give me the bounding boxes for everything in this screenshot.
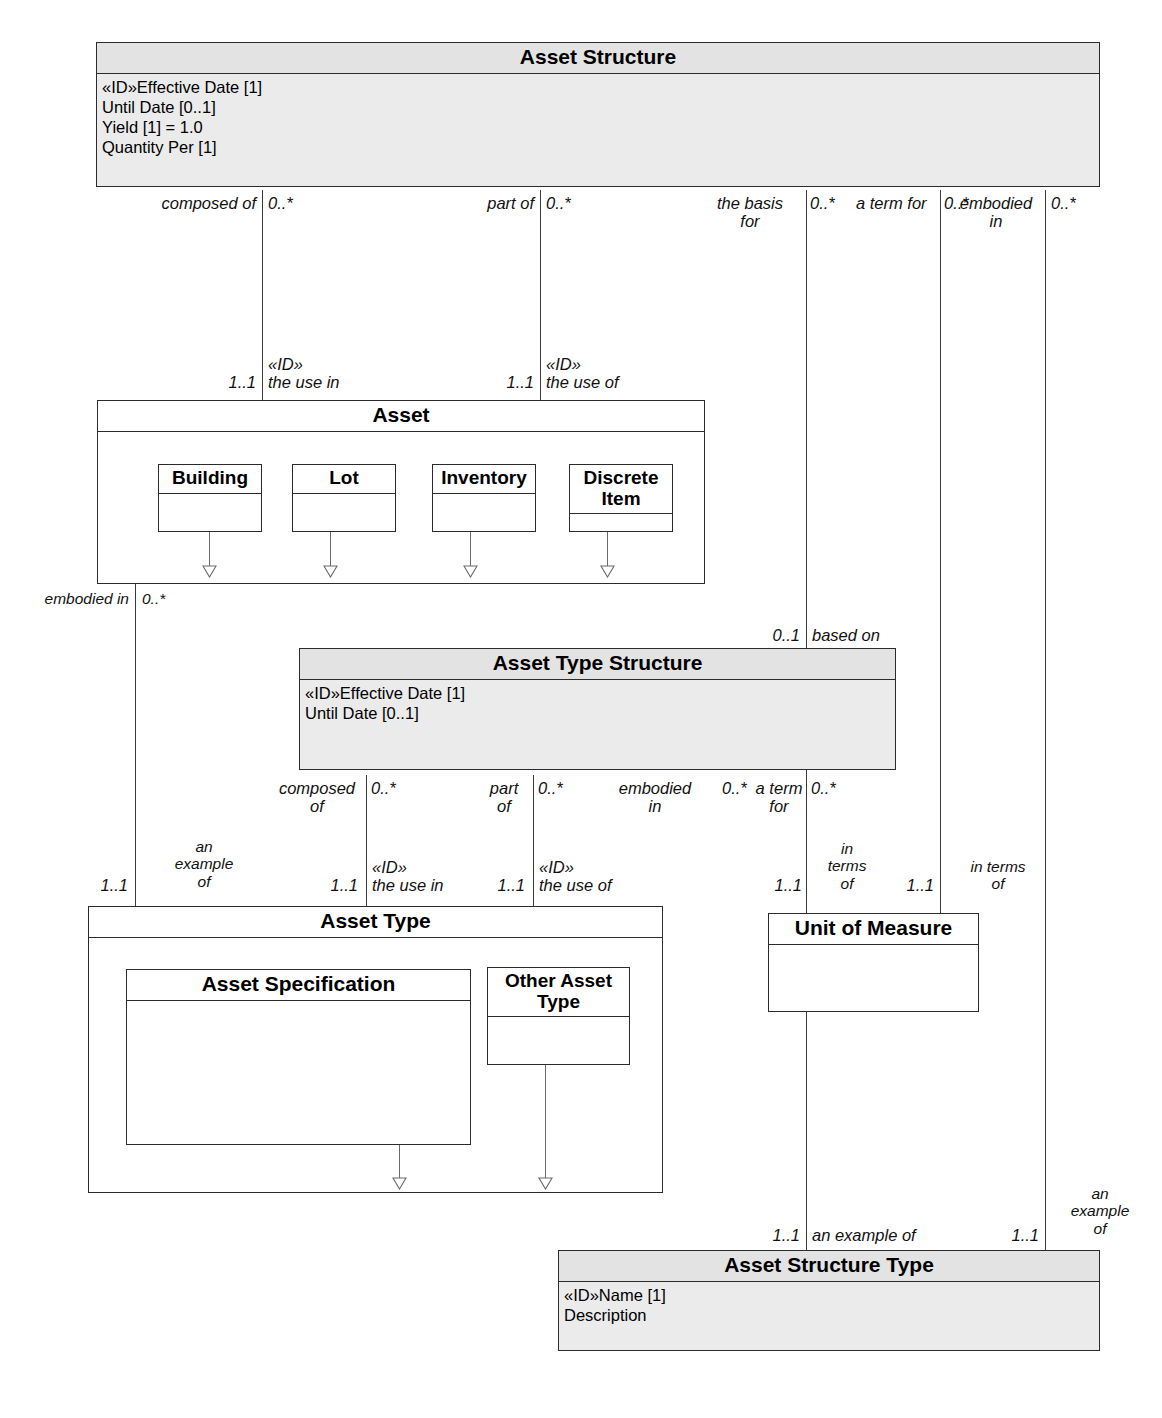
- label-mult-11-bottom-left: 1..1: [722, 1226, 800, 1244]
- label-id-the-use-in-top: «ID» the use in: [268, 355, 418, 392]
- gen-arrow-inventory: [463, 565, 478, 578]
- assoc-line-a-term-for: [940, 190, 941, 915]
- class-lot-title: Lot: [293, 465, 395, 494]
- label-mult-0star-left: 0..*: [142, 590, 192, 607]
- gen-arrow-discrete-item: [600, 565, 615, 578]
- gen-arrow-lot: [323, 565, 338, 578]
- label-composed-of-mid: composed of: [272, 779, 362, 816]
- label-part-of-top: part of: [420, 194, 534, 212]
- label-mult-0star-i: 0..*: [811, 779, 861, 797]
- class-unit-of-measure[interactable]: Unit of Measure: [768, 913, 979, 1012]
- class-inventory[interactable]: Inventory: [432, 464, 536, 532]
- label-id-the-use-of-mid: «ID» the use of: [539, 858, 689, 895]
- assoc-line-part-of: [540, 190, 541, 402]
- assoc-line-part-of-mid: [533, 775, 534, 906]
- label-mult-11-left: 1..1: [52, 876, 128, 894]
- label-composed-of-top: composed of: [120, 194, 256, 212]
- label-mult-11-a: 1..1: [176, 373, 256, 391]
- class-asset-type-structure-attributes: «ID»Effective Date [1] Until Date [0..1]: [300, 680, 895, 725]
- class-asset-specification[interactable]: Asset Specification: [126, 969, 471, 1145]
- class-asset-structure-type-attributes: «ID»Name [1] Description: [559, 1282, 1099, 1327]
- gen-line-inventory: [470, 532, 471, 567]
- label-embodied-in-left: embodied in: [24, 590, 129, 607]
- label-id-the-use-of-top: «ID» the use of: [546, 355, 696, 392]
- class-asset-structure-attributes: «ID»Effective Date [1] Until Date [0..1]…: [97, 74, 1099, 160]
- gen-line-discrete-item: [607, 532, 608, 567]
- class-building[interactable]: Building: [158, 464, 262, 532]
- label-a-term-for-mid: a term for: [754, 779, 804, 816]
- label-mult-11-uom-right: 1..1: [858, 876, 934, 894]
- class-asset-type-structure[interactable]: Asset Type Structure «ID»Effective Date …: [299, 648, 896, 770]
- class-other-asset-type-title: Other Asset Type: [488, 968, 629, 1017]
- label-mult-11-uom-left: 1..1: [726, 876, 802, 894]
- assoc-line-composed-of: [262, 190, 263, 402]
- class-building-title: Building: [159, 465, 261, 494]
- class-lot[interactable]: Lot: [292, 464, 396, 532]
- class-unit-of-measure-title: Unit of Measure: [769, 914, 978, 945]
- class-asset-structure-type[interactable]: Asset Structure Type «ID»Name [1] Descri…: [558, 1250, 1100, 1351]
- class-asset-structure[interactable]: Asset Structure «ID»Effective Date [1] U…: [96, 42, 1100, 187]
- label-a-term-for-top: a term for: [856, 194, 946, 212]
- assoc-line-embodied-in-left: [135, 583, 136, 906]
- label-in-terms-of-2: in terms of: [952, 858, 1044, 893]
- label-mult-0star-b: 0..*: [546, 194, 606, 212]
- gen-arrow-asset-specification: [392, 1177, 407, 1190]
- gen-line-lot: [330, 532, 331, 567]
- label-based-on: based on: [812, 626, 922, 644]
- class-discrete-item[interactable]: Discrete Item: [569, 464, 673, 532]
- label-mult-01-based: 0..1: [722, 626, 800, 644]
- uml-class-diagram-canvas: Asset Structure «ID»Effective Date [1] U…: [0, 0, 1162, 1418]
- assoc-line-embodied-in-right: [1045, 190, 1046, 1250]
- class-inventory-title: Inventory: [433, 465, 535, 494]
- label-mult-0star-a: 0..*: [268, 194, 328, 212]
- class-asset-structure-title: Asset Structure: [97, 43, 1099, 74]
- label-an-example-of-left: an example of: [155, 838, 253, 890]
- gen-line-asset-specification: [399, 1145, 400, 1179]
- label-mult-0star-g: 0..*: [538, 779, 588, 797]
- label-an-example-of-right: an example of: [1054, 1185, 1146, 1237]
- gen-line-building: [209, 532, 210, 567]
- gen-line-other-asset-type: [545, 1065, 546, 1179]
- label-mult-0star-d: 0..*: [944, 194, 984, 212]
- class-asset-structure-type-title: Asset Structure Type: [559, 1251, 1099, 1282]
- gen-arrow-other-asset-type: [538, 1177, 553, 1190]
- class-asset-type-structure-title: Asset Type Structure: [300, 649, 895, 680]
- label-mult-0star-e: 0..*: [1051, 194, 1099, 212]
- label-embodied-in-mid: embodied in: [600, 779, 710, 816]
- label-part-of-mid: part of: [480, 779, 528, 816]
- label-mult-0star-c: 0..*: [810, 194, 854, 212]
- label-mult-11-d: 1..1: [449, 876, 525, 894]
- label-the-basis-for: the basis for: [700, 194, 800, 231]
- gen-arrow-building: [202, 565, 217, 578]
- class-discrete-item-title: Discrete Item: [570, 465, 672, 514]
- label-mult-0star-f: 0..*: [371, 779, 421, 797]
- assoc-line-composed-of-mid: [366, 775, 367, 906]
- class-asset-specification-title: Asset Specification: [127, 970, 470, 1001]
- class-other-asset-type[interactable]: Other Asset Type: [487, 967, 630, 1065]
- label-mult-11-bottom-right: 1..1: [961, 1226, 1039, 1244]
- class-asset-type-title: Asset Type: [89, 907, 662, 938]
- label-mult-11-c: 1..1: [282, 876, 358, 894]
- label-mult-11-b: 1..1: [454, 373, 534, 391]
- class-asset-title: Asset: [98, 401, 704, 432]
